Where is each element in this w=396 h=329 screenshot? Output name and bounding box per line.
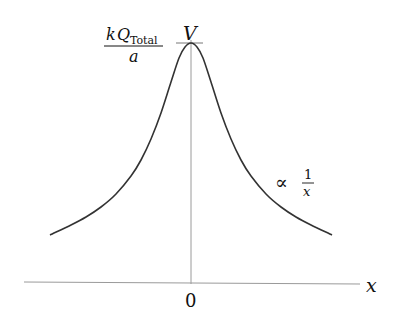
proportional-symbol: ∝ — [275, 171, 288, 193]
label-x-denominator: x — [303, 184, 311, 199]
label-k: k — [106, 25, 116, 44]
x-axis — [24, 282, 360, 284]
label-a: a — [129, 47, 139, 66]
label-one: 1 — [304, 167, 312, 182]
origin-label: 0 — [185, 290, 196, 311]
y-axis-label: V — [183, 22, 199, 44]
x-axis-label: x — [366, 274, 377, 296]
peak-value-label: k Q Total a — [104, 25, 163, 66]
potential-diagram: k Q Total a V ∝ 1 x 0 x — [0, 0, 396, 329]
label-total-subscript: Total — [130, 34, 158, 47]
asymptote-label: ∝ 1 x — [275, 167, 314, 199]
label-Q: Q — [117, 25, 130, 44]
